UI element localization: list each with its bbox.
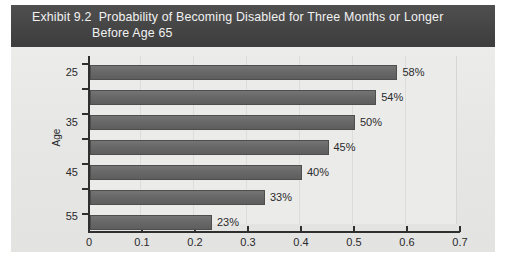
gridline-0.6 bbox=[405, 56, 406, 224]
bar-age-25 bbox=[90, 65, 397, 80]
x-tick-label-0.6: 0.6 bbox=[392, 236, 422, 248]
bar-age-50 bbox=[90, 190, 265, 205]
bar-value-label-25: 58% bbox=[402, 66, 424, 78]
x-tick-0.7 bbox=[459, 226, 461, 232]
bar-value-label-40: 45% bbox=[334, 141, 356, 153]
y-tick-7 bbox=[82, 213, 89, 215]
x-tick-0.3 bbox=[247, 226, 249, 232]
y-tick-4 bbox=[82, 138, 89, 140]
gridline-0.5 bbox=[352, 56, 353, 224]
x-tick-label-0.7: 0.7 bbox=[445, 236, 475, 248]
bar-age-30 bbox=[90, 90, 376, 105]
y-tick-3 bbox=[82, 113, 89, 115]
exhibit-title-line-1: Exhibit 9.2 Probability of Becoming Disa… bbox=[32, 10, 485, 26]
exhibit-title-text-continued: Before Age 65 bbox=[32, 26, 173, 40]
x-tick-label-0.1: 0.1 bbox=[127, 236, 157, 248]
x-tick-label-0: 0 bbox=[74, 236, 104, 248]
y-tick-label-45: 45 bbox=[58, 166, 78, 178]
x-axis-line bbox=[88, 231, 460, 233]
bar-age-55 bbox=[90, 215, 212, 230]
y-tick-2 bbox=[82, 88, 89, 90]
y-tick-label-55: 55 bbox=[58, 210, 78, 222]
exhibit-title-line-2: Before Age 65 bbox=[32, 26, 485, 42]
y-tick-label-25: 25 bbox=[58, 66, 78, 78]
y-tick-label-35: 35 bbox=[58, 116, 78, 128]
x-tick-0.6 bbox=[406, 226, 408, 232]
y-tick-1 bbox=[82, 63, 89, 65]
bar-value-label-45: 40% bbox=[307, 166, 329, 178]
exhibit-figure: Exhibit 9.2 Probability of Becoming Disa… bbox=[0, 0, 510, 264]
exhibit-title-band: Exhibit 9.2 Probability of Becoming Disa… bbox=[11, 5, 495, 47]
x-tick-0.4 bbox=[300, 226, 302, 232]
exhibit-title-text: Probability of Becoming Disabled for Thr… bbox=[99, 10, 444, 24]
y-tick-5 bbox=[82, 163, 89, 165]
bar-age-35 bbox=[90, 115, 355, 130]
x-tick-label-0.4: 0.4 bbox=[286, 236, 316, 248]
y-axis-title: Age bbox=[51, 129, 62, 147]
bar-value-label-30: 54% bbox=[381, 91, 403, 103]
bar-value-label-50: 33% bbox=[270, 191, 292, 203]
x-tick-0.5 bbox=[353, 226, 355, 232]
x-tick-label-0.5: 0.5 bbox=[339, 236, 369, 248]
bar-age-40 bbox=[90, 140, 329, 155]
bar-age-45 bbox=[90, 165, 302, 180]
exhibit-number: Exhibit 9.2 bbox=[32, 10, 92, 24]
bar-value-label-55: 23% bbox=[217, 216, 239, 228]
exhibit-title-block: Exhibit 9.2 Probability of Becoming Disa… bbox=[32, 10, 485, 41]
x-tick-label-0.3: 0.3 bbox=[233, 236, 263, 248]
x-tick-label-0.2: 0.2 bbox=[180, 236, 210, 248]
bar-value-label-35: 50% bbox=[360, 116, 382, 128]
y-tick-6 bbox=[82, 188, 89, 190]
